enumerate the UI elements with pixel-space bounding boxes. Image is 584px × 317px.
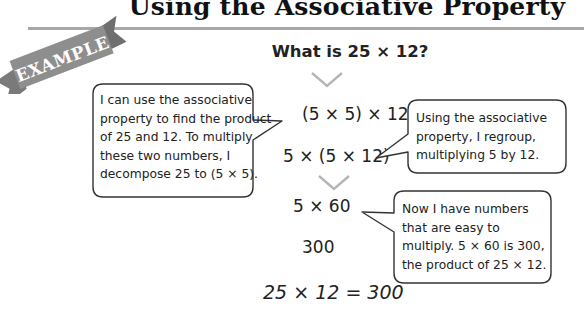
callout-line: Using the associative: [416, 109, 547, 128]
callout-line: the product of 25 × 12.: [402, 256, 546, 275]
callout-line: multiplying 5 by 12.: [416, 146, 547, 165]
callout-line: I can use the associative: [100, 91, 271, 110]
callout-line: that are easy to: [402, 219, 546, 238]
callout-line: multiply. 5 × 60 is 300,: [402, 237, 546, 256]
callout-decompose: I can use the associative property to fi…: [100, 91, 271, 184]
callout-line: these two numbers, I: [100, 147, 271, 166]
callout-line: of 25 and 12. To multiply: [100, 128, 271, 147]
callout-line: property to find the product: [100, 110, 271, 129]
callout-line: property, I regroup,: [416, 128, 547, 147]
callout-product: Now I have numbers that are easy to mult…: [402, 200, 546, 274]
callout-line: decompose 25 to (5 × 5).: [100, 165, 271, 184]
callout-regroup: Using the associative property, I regrou…: [416, 109, 547, 165]
callout-line: Now I have numbers: [402, 200, 546, 219]
